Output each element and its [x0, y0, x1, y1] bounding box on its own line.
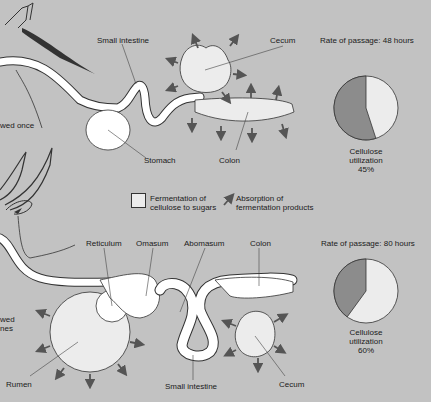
cellulose-utilization-value-bottom: 60%: [336, 346, 396, 355]
label-chewed-many: wed nes: [0, 315, 15, 333]
label-colon-top: Colon: [219, 156, 240, 165]
pie-chart-80h: [334, 259, 398, 323]
horse-cecum: [180, 45, 231, 92]
pie-chart-48h: [334, 76, 398, 140]
label-cecum-bottom: Cecum: [279, 380, 304, 389]
label-abomasum: Abomasum: [184, 239, 224, 248]
cellulose-utilization-value-top: 45%: [336, 165, 396, 174]
label-omasum: Omasum: [136, 239, 168, 248]
label-rumen: Rumen: [6, 380, 32, 389]
pie-caption-top: Cellulose utilization 45%: [336, 147, 396, 174]
rate-of-passage-bottom: Rate of passage: 80 hours: [321, 239, 415, 248]
label-small-intestine-top: Small intestine: [97, 36, 149, 45]
pie-caption-bottom: Cellulose utilization 60%: [336, 328, 396, 355]
label-small-intestine-bottom: Small intestine: [165, 382, 217, 391]
horse-colon: [195, 98, 294, 121]
absorption-arrow-icon: [224, 197, 231, 205]
label-stomach: Stomach: [144, 156, 176, 165]
ruminant-colon: [215, 277, 293, 298]
label-cecum-top: Cecum: [270, 36, 295, 45]
label-reticulum: Reticulum: [86, 239, 122, 248]
rate-of-passage-top: Rate of passage: 48 hours: [320, 36, 414, 45]
label-colon-bottom: Colon: [250, 239, 271, 248]
legend-absorption: Absorption of fermentation products: [236, 194, 313, 212]
label-chewed-once: wed once: [0, 121, 34, 130]
ruminant-cecum: [235, 311, 275, 356]
antelope-head-icon: [0, 148, 75, 258]
fermentation-legend-swatch: [131, 193, 146, 208]
legend-fermentation: Fermentation of cellulose to sugars: [150, 194, 216, 212]
